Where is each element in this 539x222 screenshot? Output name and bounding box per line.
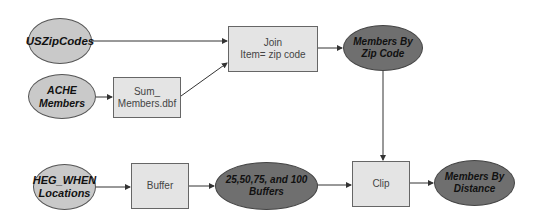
node-buffer[interactable]: Buffer — [131, 163, 189, 209]
node-buffer-label: Buffer — [147, 180, 174, 192]
node-ache-members[interactable]: ACHE Members — [28, 74, 96, 119]
node-clip[interactable]: Clip — [352, 161, 410, 207]
node-members-by-distance[interactable]: Members By Distance — [434, 160, 515, 206]
node-buffers-output-label: 25,50,75, and 100 Buffers — [226, 174, 308, 198]
node-sum-members-label: Sum_ Members.dbf — [118, 86, 176, 110]
node-heg-when-locations[interactable]: HEG_WHEN Locations — [33, 164, 96, 210]
node-uszipcodes[interactable]: USZipCodes — [28, 18, 92, 64]
node-join[interactable]: Join Item= zip code — [228, 26, 318, 72]
node-clip-label: Clip — [372, 178, 389, 190]
node-members-by-distance-label: Members By Distance — [445, 171, 504, 195]
node-sum-members[interactable]: Sum_ Members.dbf — [113, 77, 181, 118]
node-ache-members-label: ACHE Members — [29, 84, 95, 110]
node-members-by-zip-code[interactable]: Members By Zip Code — [343, 25, 423, 71]
node-uszipcodes-label: USZipCodes — [26, 35, 94, 48]
flowchart-diagram: USZipCodes ACHE Members Sum_ Members.dbf… — [0, 0, 539, 222]
edge-sum-join — [181, 63, 227, 96]
node-members-by-zip-code-label: Members By Zip Code — [353, 36, 412, 60]
node-buffers-output[interactable]: 25,50,75, and 100 Buffers — [215, 162, 318, 210]
node-join-label: Join Item= zip code — [240, 37, 305, 61]
node-heg-when-locations-label: HEG_WHEN Locations — [33, 174, 97, 200]
